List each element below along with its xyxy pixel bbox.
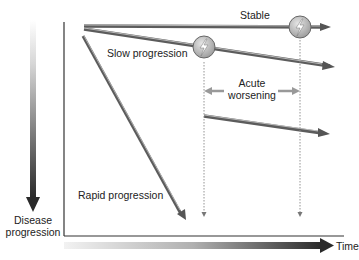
y-axis-label: Disease progression <box>4 214 62 238</box>
rapid-progression-label: Rapid progression <box>78 189 163 201</box>
slow-progression-label: Slow progression <box>107 47 188 59</box>
stable-label: Stable <box>240 9 270 21</box>
lightning-bolt-icon <box>289 16 311 38</box>
post-worsening-trajectory-line <box>204 115 330 137</box>
y-axis-gradient-arrow <box>26 20 40 212</box>
y-axis-label-line2: progression <box>4 226 62 238</box>
acute-worsening-label: Acute worsening <box>226 77 278 101</box>
y-axis-label-line1: Disease <box>4 214 62 226</box>
acute-worsening-label-line2: worsening <box>226 89 278 101</box>
acute-worsening-label-line1: Acute <box>226 77 278 89</box>
x-axis-label: Time <box>336 240 359 252</box>
lightning-bolt-icon <box>193 36 215 58</box>
x-axis-gradient-arrow <box>64 238 334 253</box>
